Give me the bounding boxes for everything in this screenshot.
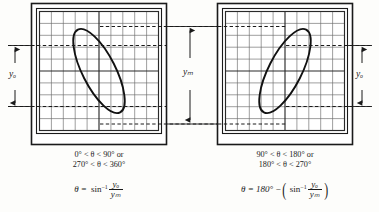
equation-right-denominator: yₘ [308,189,322,199]
equation-left-denominator: yₘ [109,189,123,199]
equation-right-lead: θ = 180° − [241,184,281,194]
label-y-o-left: yₒ [9,69,16,79]
equation-right-numerator: yₒ [308,180,322,189]
equation-right-paren-open: ( [283,182,287,198]
caption-right-line2: 180° < θ < 270° [218,160,352,170]
equation-left-lead: θ = [74,184,87,194]
label-y-o-right-text: yₒ [356,69,363,79]
equation-left-fraction: yₒ yₘ [109,180,123,200]
caption-left-line2: 270° < θ < 360° [32,160,166,170]
equation-left-numerator: yₒ [109,180,123,189]
oscilloscope-left [32,4,167,145]
equation-left: θ =sin−1 yₒ yₘ [32,180,166,200]
label-y-m-center-text: yₘ [183,67,193,77]
caption-right-line1: 90° < θ < 180° or [218,150,352,160]
equation-right-exp: −1 [300,184,306,190]
lissajous-phase-figure: yₒ yₘ yₒ 0° < θ < 90° or 270° < θ < 360°… [0,0,379,212]
equation-left-exp: −1 [101,184,107,190]
equation-right-fn: sin [290,184,301,194]
equation-right: θ = 180° −(sin−1 yₒ yₘ ) [212,180,358,200]
caption-left-line1: 0° < θ < 90° or [32,150,166,160]
equation-right-fraction: yₒ yₘ [308,180,322,200]
equation-right-paren-close: ) [324,182,328,198]
equation-left-fn: sin [91,184,102,194]
label-y-o-left-text: yₒ [9,69,16,79]
caption-right-range: 90° < θ < 180° or 180° < θ < 270° [218,150,352,169]
oscilloscope-right [218,4,353,145]
label-y-o-right: yₒ [356,69,363,79]
label-y-m-center: yₘ [183,66,193,77]
caption-left-range: 0° < θ < 90° or 270° < θ < 360° [32,150,166,169]
